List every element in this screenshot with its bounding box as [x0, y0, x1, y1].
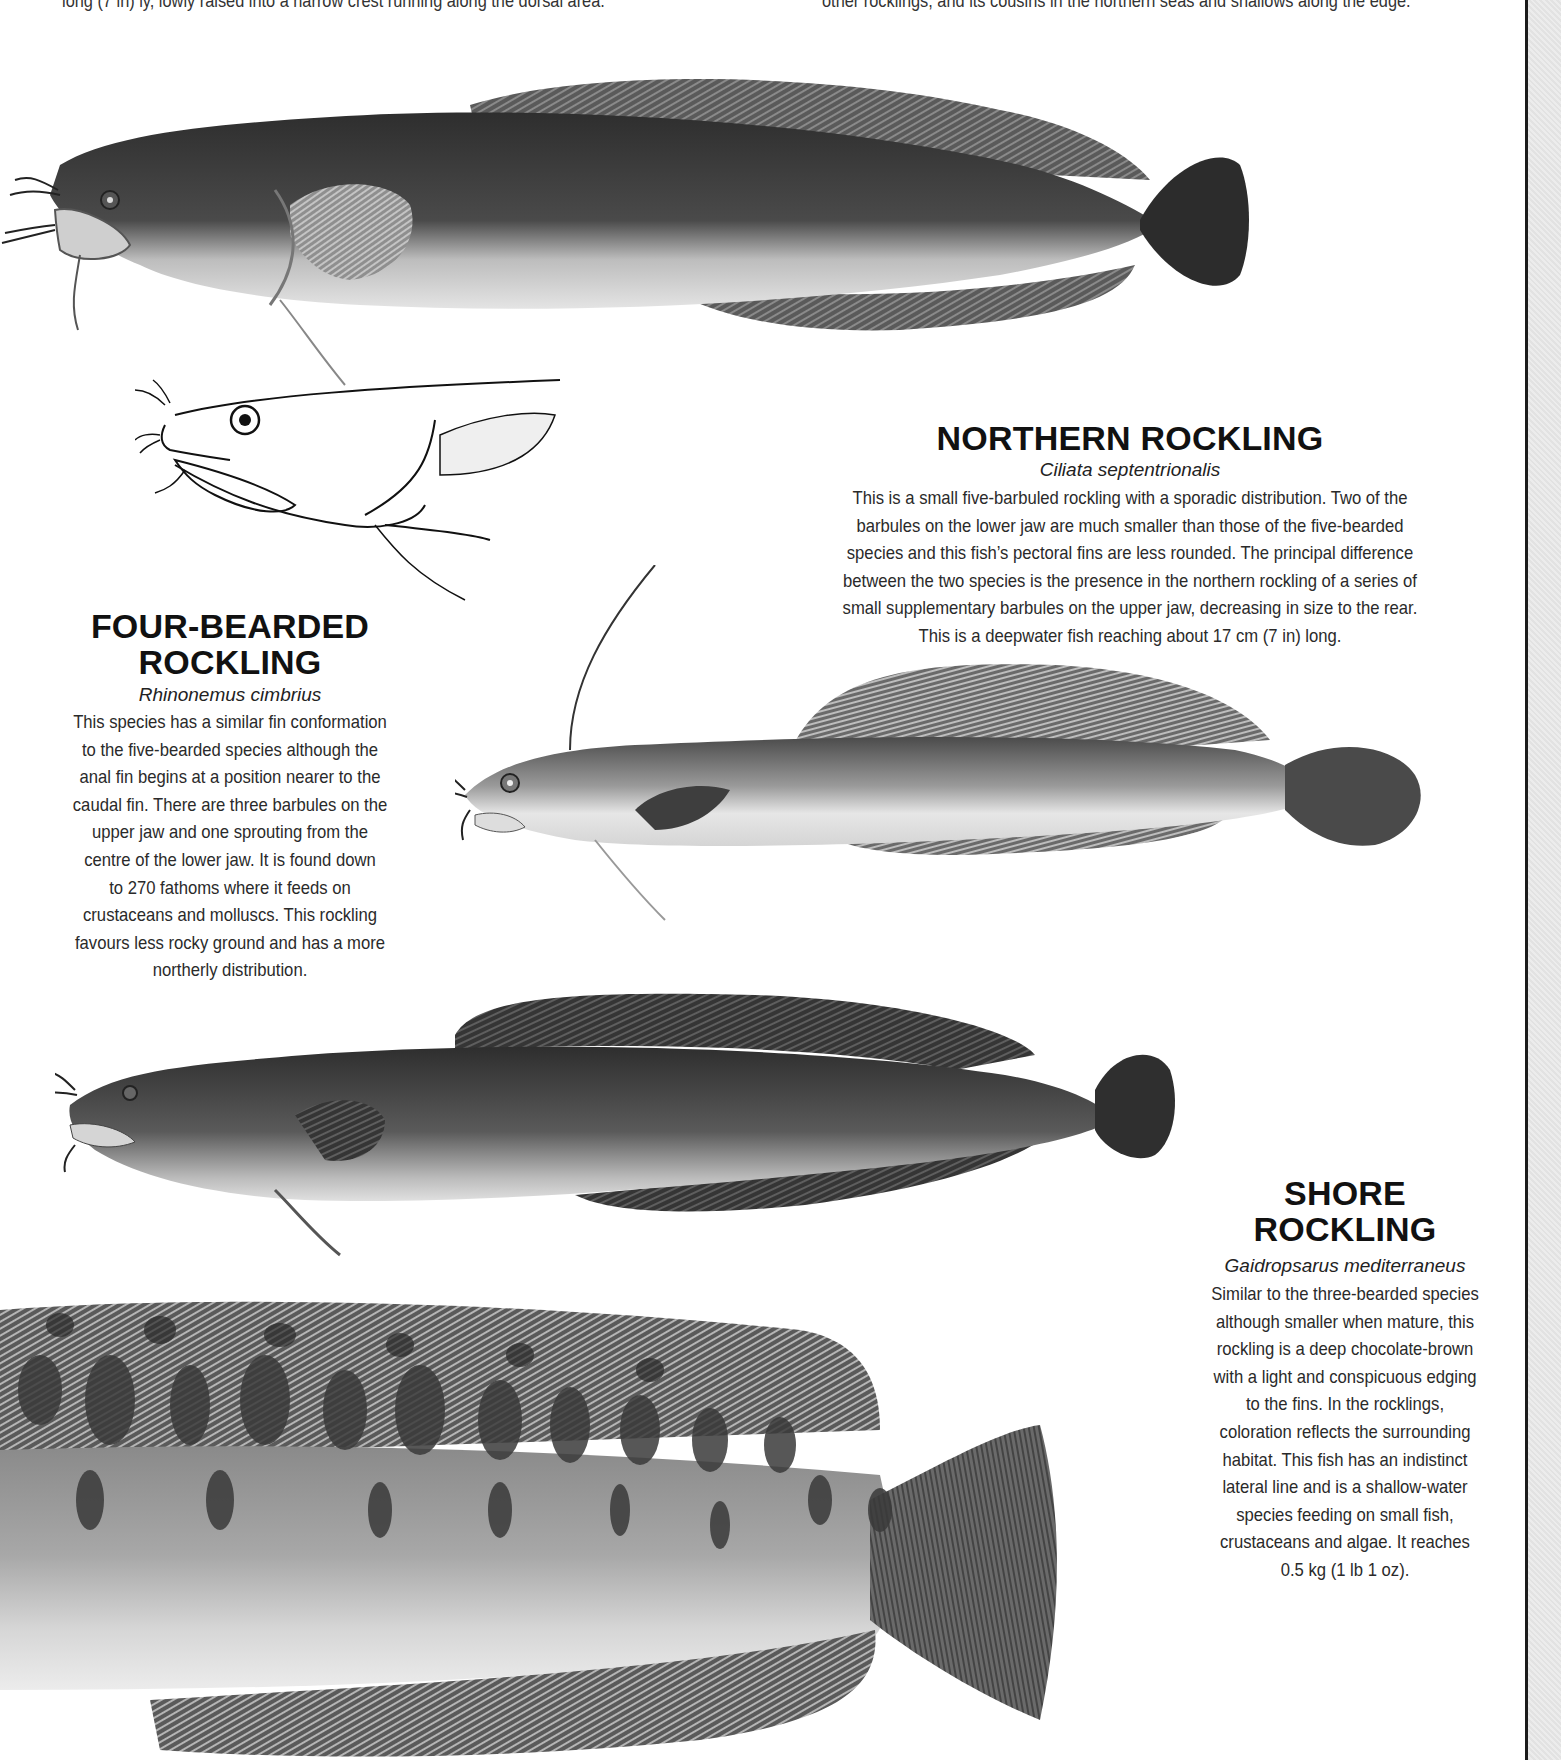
four-bearded-rockling-illustration [55, 980, 1180, 1260]
text-line: barbules on the lower jaw are much small… [797, 512, 1463, 540]
text-line: to the five-bearded species although the [41, 736, 419, 764]
page-gutter [1528, 0, 1561, 1760]
northern-latin-name: Ciliata septentrionalis [790, 459, 1470, 481]
top-rockling-illustration [0, 55, 1260, 395]
book-page: long (7 in) ly, lowly raised into a narr… [0, 0, 1525, 1760]
text-line: species and this fish’s pectoral fins ar… [797, 539, 1463, 567]
four-bearded-description: This species has a similar fin conformat… [41, 708, 419, 984]
text-line: lateral line and is a shallow-water [1179, 1473, 1512, 1501]
text-line: Similar to the three-bearded species [1179, 1280, 1512, 1308]
clipped-text-right: other rocklings, and its cousins in the … [822, 0, 1411, 12]
four-bearded-latin-name: Rhinonemus cimbrius [40, 684, 420, 706]
northern-rockling-illustration [455, 565, 1525, 925]
title-line: ROCKLING [40, 644, 420, 680]
four-bearded-title: FOUR-BEARDED ROCKLING [40, 608, 420, 680]
text-line: 0.5 kg (1 lb 1 oz). [1179, 1556, 1512, 1584]
shore-title: SHORE ROCKLING [1175, 1175, 1515, 1247]
text-line: although smaller when mature, this [1179, 1308, 1512, 1336]
text-line: crustaceans and molluscs. This rockling [41, 901, 419, 929]
text-line: to the fins. In the rocklings, [1179, 1390, 1512, 1418]
text-line: crustaceans and algae. It reaches [1179, 1528, 1512, 1556]
text-line: caudal fin. There are three barbules on … [41, 791, 419, 819]
text-line: to 270 fathoms where it feeds on [41, 874, 419, 902]
text-line: with a light and conspicuous edging [1179, 1363, 1512, 1391]
text-line: coloration reflects the surrounding [1179, 1418, 1512, 1446]
shore-rockling-closeup-illustration [0, 1300, 1180, 1760]
text-line: anal fin begins at a position nearer to … [41, 763, 419, 791]
northern-title: NORTHERN ROCKLING [790, 420, 1470, 456]
title-line: SHORE [1175, 1175, 1515, 1211]
shore-latin-name: Gaidropsarus mediterraneus [1165, 1255, 1525, 1277]
text-line: habitat. This fish has an indistinct [1179, 1446, 1512, 1474]
text-line: centre of the lower jaw. It is found dow… [41, 846, 419, 874]
text-line: rockling is a deep chocolate-brown [1179, 1335, 1512, 1363]
clipped-text-left: long (7 in) ly, lowly raised into a narr… [62, 0, 605, 12]
text-line: species feeding on small fish, [1179, 1501, 1512, 1529]
title-line: FOUR-BEARDED [40, 608, 420, 644]
text-line: This species has a similar fin conformat… [41, 708, 419, 736]
shore-description: Similar to the three-bearded species alt… [1179, 1280, 1512, 1584]
text-line: This is a small five-barbuled rockling w… [797, 484, 1463, 512]
text-line: favours less rocky ground and has a more [41, 929, 419, 957]
title-line: ROCKLING [1175, 1211, 1515, 1247]
title-line: NORTHERN ROCKLING [790, 420, 1470, 456]
text-line: upper jaw and one sprouting from the [41, 818, 419, 846]
